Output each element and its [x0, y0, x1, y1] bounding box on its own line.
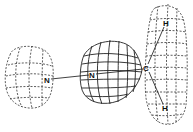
atom-labels: N N C H H — [44, 19, 169, 113]
atom-h2: H — [162, 104, 168, 113]
bond-c-h2 — [149, 72, 163, 104]
atom-c: C — [143, 64, 149, 73]
atom-n2: N — [89, 71, 95, 80]
molecular-orbital-diagram: N N C H H — [0, 0, 193, 132]
bond-n1-n2 — [51, 75, 89, 79]
atom-h1: H — [163, 19, 169, 28]
atom-n1: N — [44, 76, 50, 85]
bond-c-h1 — [148, 27, 164, 64]
